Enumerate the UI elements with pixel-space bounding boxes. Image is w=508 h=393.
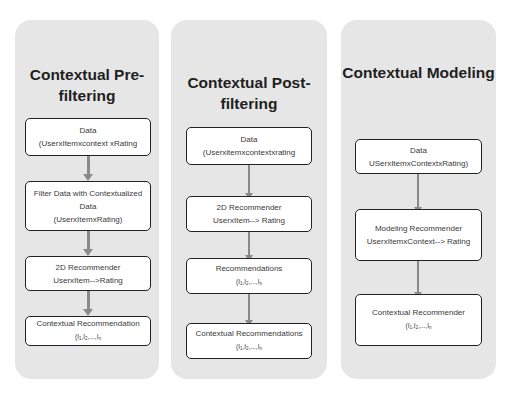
box-modeling-recommender: Modeling Recommender UserxItemxContext--… — [355, 209, 482, 261]
box-label: Filter Data with Contextualized — [34, 187, 143, 200]
item-list: (I1,I2,...,In — [405, 319, 431, 334]
item-list: (I1,I2,...,In — [236, 275, 262, 290]
box-2d-recommender: 2D Recommender UserxItem-->Rating — [25, 256, 151, 291]
box-label-cont: Data — [80, 200, 97, 213]
box-data: Data USerxItemxContextxRating) — [355, 139, 482, 174]
box-detail: USerxItemxContextxRating) — [369, 157, 468, 170]
box-label: Contextual Recommendation — [36, 317, 139, 330]
box-label: Contextual Recommendations — [195, 327, 302, 340]
box-detail: UserxItemxContext--> Rating — [367, 235, 470, 248]
box-label: 2D Recommender — [56, 261, 121, 274]
box-label: Contextual Recommender — [372, 306, 465, 319]
panel-pre-filtering: Contextual Pre- filtering Data (UserxIte… — [15, 20, 159, 379]
box-data: Data (Userxitemxcontextxrating — [186, 127, 312, 165]
box-label: Data — [241, 133, 258, 146]
panel-contextual-modeling: Contextual Modeling Data USerxItemxConte… — [341, 20, 496, 379]
panel-title: Contextual Modeling — [341, 62, 496, 83]
panel-post-filtering: Contextual Post- filtering Data (Userxit… — [171, 20, 327, 379]
box-filter-data: Filter Data with Contextualized Data (Us… — [25, 181, 151, 231]
box-label: Data — [80, 124, 97, 137]
panel-title: Contextual Post- filtering — [171, 72, 327, 114]
title-line-1: Contextual Pre- — [15, 64, 159, 85]
box-detail: (UserxItemxRating) — [54, 213, 123, 226]
diagram-canvas: Contextual Pre- filtering Data (UserxIte… — [0, 0, 508, 393]
box-label: 2D Recommender — [217, 201, 282, 214]
item-list: (I1,I2,...,In — [75, 330, 101, 345]
box-2d-recommender: 2D Recommender UserxItem--> Rating — [186, 196, 312, 232]
box-label: Data — [410, 144, 427, 157]
title-line-1: Contextual Modeling — [341, 62, 496, 83]
panel-title: Contextual Pre- filtering — [15, 64, 159, 106]
title-line-1: Contextual Post- — [171, 72, 327, 93]
box-label: Modeling Recommender — [375, 222, 462, 235]
item-list: (I1,I2,...,In — [236, 340, 262, 355]
box-contextual-recommendations: Contextual Recommendations (I1,I2,...,In — [186, 323, 312, 359]
box-detail: (Userxitemxcontextxrating — [203, 146, 295, 159]
box-detail: UserxItem-->Rating — [53, 274, 123, 287]
title-line-2: filtering — [171, 93, 327, 114]
box-contextual-recommendation: Contextual Recommendation (I1,I2,...,In — [25, 316, 151, 346]
box-recommendations: Recommendations (I1,I2,...,In — [186, 258, 312, 294]
box-detail: UserxItem--> Rating — [213, 214, 285, 227]
title-line-2: filtering — [15, 85, 159, 106]
box-label: Recommendations — [216, 262, 283, 275]
box-detail: (UserxItemxcontext xRating — [39, 137, 137, 150]
box-data: Data (UserxItemxcontext xRating — [25, 118, 151, 156]
box-contextual-recommender: Contextual Recommender (I1,I2,...,In — [355, 294, 482, 346]
